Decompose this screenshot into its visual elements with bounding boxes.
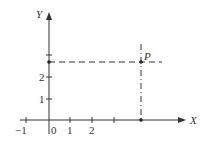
x-arrow-icon — [178, 117, 186, 123]
x-tick-label: 1 — [67, 125, 73, 136]
y-tick-label: 1 — [39, 94, 45, 105]
coordinate-plane — [0, 0, 208, 146]
y-arrow-icon — [46, 12, 52, 20]
x-axis-label: X — [190, 115, 197, 126]
x-tick-label: 0 — [51, 125, 57, 136]
y-tick-label: 2 — [39, 72, 45, 83]
point-label: P — [144, 51, 151, 62]
x-tick-label: −1 — [15, 125, 27, 136]
point-y-projection — [47, 60, 51, 64]
point-p — [139, 60, 143, 64]
point-x-projection — [139, 118, 143, 122]
y-axis-label: Y — [36, 9, 42, 20]
x-tick-label: 2 — [89, 125, 95, 136]
